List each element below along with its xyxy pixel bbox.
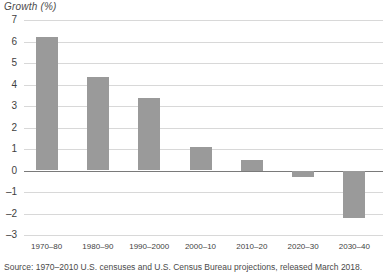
- y-axis-tick-label: –3: [0, 230, 17, 240]
- gridline: [24, 106, 383, 107]
- x-axis-tick-label: 2020–30: [287, 242, 318, 251]
- y-axis-tick-label: 2: [0, 123, 17, 133]
- chart-figure: Growth (%) 76543210–1–2–3 1970–801980–90…: [0, 0, 388, 279]
- bar: [343, 171, 365, 218]
- gridline: [24, 63, 383, 64]
- bar: [241, 160, 263, 171]
- x-axis-tick-label: 1970–80: [31, 242, 62, 251]
- y-axis-tick-label: 1: [0, 144, 17, 154]
- gridline: [24, 42, 383, 43]
- x-axis-tick-label: 2030–40: [339, 242, 370, 251]
- y-axis-tick-label: 3: [0, 101, 17, 111]
- source-note: Source: 1970–2010 U.S. censuses and U.S.…: [4, 262, 362, 272]
- x-axis-tick-label: 1990–2000: [129, 242, 169, 251]
- gridline: [24, 192, 383, 193]
- plot-area: 76543210–1–2–3 1970–801980–901990–200020…: [24, 20, 383, 235]
- y-axis-title: Growth (%): [4, 1, 57, 12]
- zero-axis-line: [24, 171, 383, 172]
- bar: [36, 37, 58, 170]
- gridline: [24, 128, 383, 129]
- y-axis-tick-label: 5: [0, 58, 17, 68]
- y-axis-tick-label: 7: [0, 15, 17, 25]
- y-axis-tick-label: 4: [0, 80, 17, 90]
- gridline: [24, 235, 383, 236]
- bar: [292, 171, 314, 177]
- gridline: [24, 20, 383, 21]
- y-axis-tick-label: –2: [0, 209, 17, 219]
- bar: [190, 147, 212, 171]
- gridline: [24, 214, 383, 215]
- gridline: [24, 85, 383, 86]
- x-axis-tick-label: 2000–10: [185, 242, 216, 251]
- y-axis-tick-label: 0: [0, 166, 17, 176]
- bar: [138, 98, 160, 170]
- x-axis-tick-label: 2010–20: [236, 242, 267, 251]
- x-axis-tick-label: 1980–90: [82, 242, 113, 251]
- y-axis-tick-label: –1: [0, 187, 17, 197]
- bar: [87, 77, 109, 171]
- y-axis-tick-label: 6: [0, 37, 17, 47]
